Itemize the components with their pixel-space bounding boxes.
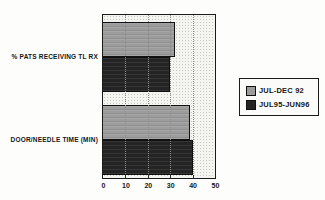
legend-swatch-jul-dec-92-icon xyxy=(246,86,256,96)
x-axis-tick-40 xyxy=(193,175,194,178)
x-axis-tick-20 xyxy=(148,175,149,178)
x-axis-tick-label-50: 50 xyxy=(208,182,224,189)
x-axis-tick-label-0: 0 xyxy=(96,182,112,189)
plot-area xyxy=(102,14,216,179)
gridline-30 xyxy=(170,15,171,178)
x-axis-tick-label-10: 10 xyxy=(118,182,134,189)
bar-jul95-jun96-pats-receiving xyxy=(103,57,170,92)
gridline-40 xyxy=(193,15,194,178)
x-axis-tick-label-40: 40 xyxy=(185,182,201,189)
bar-jul-dec-92-door-needle-time xyxy=(103,105,190,140)
x-axis-tick-30 xyxy=(170,175,171,178)
legend-label-jul95-jun96: JUL95-JUN96 xyxy=(259,100,310,109)
category-label-pats-receiving: % PATS RECEIVING TL RX xyxy=(0,53,98,61)
legend-item-jul-dec-92: JUL-DEC 92 xyxy=(246,84,318,97)
x-axis-tick-10 xyxy=(125,175,126,178)
gridline-20 xyxy=(148,15,149,178)
legend-label-jul-dec-92: JUL-DEC 92 xyxy=(259,86,304,95)
legend: JUL-DEC 92 JUL95-JUN96 xyxy=(239,78,319,116)
legend-item-jul95-jun96: JUL95-JUN96 xyxy=(246,98,318,111)
x-axis-tick-label-20: 20 xyxy=(140,182,156,189)
bar-jul-dec-92-pats-receiving xyxy=(103,22,175,57)
category-label-door-needle-time: DOOR/NEEDLE TIME (MIN) xyxy=(0,136,98,144)
gridline-10 xyxy=(125,15,126,178)
x-axis-tick-label-30: 30 xyxy=(163,182,179,189)
bar-chart: % PATS RECEIVING TL RX DOOR/NEEDLE TIME … xyxy=(0,0,325,200)
legend-swatch-jul95-jun96-icon xyxy=(246,100,256,110)
